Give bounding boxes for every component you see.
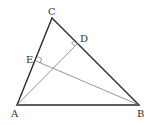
altitude-be	[36, 61, 139, 105]
edge-bc	[52, 18, 139, 105]
point-label-d: D	[80, 33, 88, 44]
point-label-e: E	[26, 54, 33, 65]
edge-ca	[17, 18, 52, 105]
altitude-ad	[17, 43, 78, 105]
vertex-label-c: C	[48, 6, 56, 17]
vertex-label-a: A	[10, 108, 19, 119]
triangle-diagram: A B C D E	[0, 0, 158, 125]
vertex-label-b: B	[137, 108, 144, 119]
